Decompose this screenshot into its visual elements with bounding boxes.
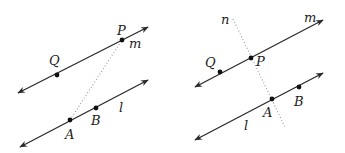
figure-left: PmQABl xyxy=(18,23,148,147)
label-Q: Q xyxy=(205,55,216,70)
point-B xyxy=(94,106,99,111)
point-Q xyxy=(55,73,60,78)
point-Q xyxy=(218,70,223,75)
parallel-lines-diagram: PmQABlnmPQABl xyxy=(0,0,345,153)
line-l xyxy=(20,80,148,147)
label-n: n xyxy=(221,12,229,27)
label-A: A xyxy=(64,127,74,142)
label-P: P xyxy=(116,23,126,38)
label-P: P xyxy=(255,54,265,69)
point-A xyxy=(270,97,275,102)
point-P xyxy=(249,56,254,61)
line-l xyxy=(195,73,323,140)
label-l: l xyxy=(244,118,248,133)
figure-right: nmPQABl xyxy=(195,10,323,140)
label-m: m xyxy=(304,10,316,25)
label-Q: Q xyxy=(49,53,60,68)
label-A: A xyxy=(262,105,272,120)
point-P xyxy=(120,38,125,43)
point-B xyxy=(297,85,302,90)
label-B: B xyxy=(293,94,304,109)
label-m: m xyxy=(129,36,141,51)
dotted-segment xyxy=(233,19,285,127)
point-A xyxy=(68,118,73,123)
label-B: B xyxy=(90,113,101,128)
label-l: l xyxy=(119,100,123,115)
